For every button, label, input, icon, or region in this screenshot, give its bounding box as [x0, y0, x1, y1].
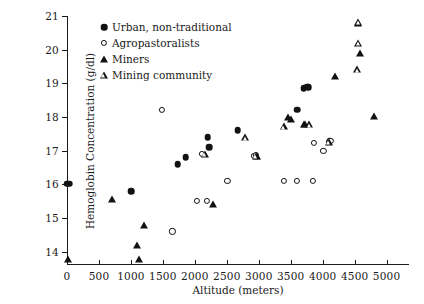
triangle-filled-marker — [370, 113, 378, 120]
x-tick — [99, 260, 100, 265]
legend-item: Mining community — [96, 67, 266, 83]
triangle-open-marker — [280, 123, 288, 130]
x-tick — [323, 260, 324, 265]
legend-marker-swatch — [96, 67, 112, 83]
y-tick-label: 15 — [45, 213, 59, 224]
y-tick-label: 17 — [45, 145, 59, 156]
y-tick-label: 16 — [45, 179, 59, 190]
triangle-open-marker — [354, 19, 362, 26]
circle-open-marker — [311, 140, 317, 146]
triangle-open-marker — [100, 72, 108, 79]
legend-item: Agropastoralists — [96, 35, 266, 51]
y-tick — [62, 50, 67, 51]
triangle-open-marker — [305, 121, 313, 128]
x-tick — [195, 260, 196, 265]
triangle-open-marker — [201, 150, 209, 157]
y-tick — [62, 151, 67, 152]
y-tick-label: 14 — [45, 246, 59, 257]
x-tick — [227, 260, 228, 265]
x-tick-label: 4500 — [341, 271, 369, 282]
triangle-filled-marker — [209, 201, 217, 208]
chart-legend: Urban, non-traditionalAgropastoralistsMi… — [96, 19, 266, 83]
triangle-filled-marker — [64, 255, 72, 262]
triangle-filled-marker — [331, 72, 339, 79]
triangle-open-marker — [354, 39, 362, 46]
x-tick — [291, 260, 292, 265]
triangle-filled-marker — [287, 115, 295, 122]
triangle-filled-marker — [108, 196, 116, 203]
x-tick-label: 3500 — [277, 271, 305, 282]
y-tick — [62, 83, 67, 84]
y-axis-line — [67, 16, 68, 265]
y-tick — [62, 117, 67, 118]
triangle-open-marker — [325, 138, 333, 145]
circle-filled-marker — [183, 154, 190, 161]
x-tick — [387, 260, 388, 265]
circle-open-marker — [224, 178, 230, 184]
y-tick-label: 21 — [45, 11, 59, 22]
triangle-open-marker — [353, 66, 361, 73]
triangle-filled-marker — [133, 241, 141, 248]
y-tick-label: 20 — [45, 44, 59, 55]
legend-marker-swatch — [96, 51, 112, 67]
x-tick — [163, 260, 164, 265]
circle-filled-marker — [305, 84, 312, 91]
x-tick-label: 1000 — [117, 271, 145, 282]
x-tick-label: 0 — [64, 271, 71, 282]
circle-filled-marker — [294, 106, 301, 113]
circle-open-marker — [159, 107, 165, 113]
x-tick-label: 4000 — [309, 271, 337, 282]
x-tick — [259, 260, 260, 265]
circle-open-marker — [194, 198, 200, 204]
circle-open-marker — [101, 40, 107, 46]
circle-filled-marker — [128, 188, 135, 195]
triangle-filled-marker — [100, 56, 108, 63]
legend-item-label: Mining community — [112, 70, 212, 81]
y-tick — [62, 252, 67, 253]
y-axis-title-container: Hemoglobin Concentration (g/dl) — [4, 16, 22, 265]
x-axis-line — [67, 264, 409, 265]
y-tick — [62, 218, 67, 219]
triangle-open-marker — [252, 152, 260, 159]
circle-filled-marker — [101, 24, 108, 31]
circle-open-marker — [310, 178, 316, 184]
circle-open-marker — [281, 178, 287, 184]
circle-open-marker — [169, 228, 175, 234]
circle-open-marker — [320, 148, 326, 154]
legend-item-label: Urban, non-traditional — [112, 22, 232, 33]
legend-item-label: Agropastoralists — [112, 38, 200, 49]
legend-marker-swatch — [96, 19, 112, 35]
x-tick-label: 500 — [89, 271, 110, 282]
triangle-filled-marker — [135, 255, 143, 262]
x-tick-label: 5000 — [373, 271, 401, 282]
legend-marker-swatch — [96, 35, 112, 51]
y-tick — [62, 16, 67, 17]
x-axis-title: Altitude (meters) — [67, 284, 409, 296]
y-tick-label: 19 — [45, 78, 59, 89]
triangle-filled-marker — [356, 50, 364, 57]
circle-filled-marker — [174, 161, 181, 168]
legend-item: Miners — [96, 51, 266, 67]
legend-item-label: Miners — [112, 54, 150, 65]
x-tick-label: 1500 — [149, 271, 177, 282]
scatter-plot-figure: Hemoglobin Concentration (g/dl) 14151617… — [0, 0, 424, 304]
x-tick — [355, 260, 356, 265]
x-tick-label: 2500 — [213, 271, 241, 282]
x-tick — [131, 260, 132, 265]
x-tick-label: 3000 — [245, 271, 273, 282]
circle-filled-marker — [204, 134, 211, 141]
triangle-open-marker — [241, 134, 249, 141]
circle-open-marker — [294, 178, 300, 184]
triangle-filled-marker — [140, 221, 148, 228]
circle-filled-marker — [234, 127, 241, 134]
y-tick-label: 18 — [45, 112, 59, 123]
legend-item: Urban, non-traditional — [96, 19, 266, 35]
circle-filled-marker — [66, 180, 73, 187]
x-tick-label: 2000 — [181, 271, 209, 282]
